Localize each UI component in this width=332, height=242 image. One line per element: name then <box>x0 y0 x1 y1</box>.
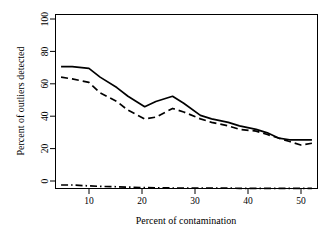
y-tick-label-100: 100 <box>40 12 50 27</box>
y-tick-label-40: 40 <box>40 111 50 121</box>
x-axis-title: Percent of contamination <box>136 215 237 226</box>
y-tick-label-60: 60 <box>40 79 50 89</box>
x-tick-label-30: 30 <box>190 196 200 206</box>
y-tick-label-80: 80 <box>40 46 50 56</box>
chart-figure: 100 80 60 40 20 0 Percent of outliers de… <box>0 0 332 242</box>
x-tick-label-40: 40 <box>243 196 253 206</box>
x-tick-label-20: 20 <box>137 196 147 206</box>
y-tick-label-0: 0 <box>40 178 50 183</box>
y-axis-title: Percent of outliers detected <box>15 46 26 155</box>
line-chart: 100 80 60 40 20 0 Percent of outliers de… <box>0 0 332 242</box>
x-tick-label-10: 10 <box>84 196 94 206</box>
y-tick-label-20: 20 <box>40 144 50 154</box>
x-tick-label-50: 50 <box>296 196 306 206</box>
